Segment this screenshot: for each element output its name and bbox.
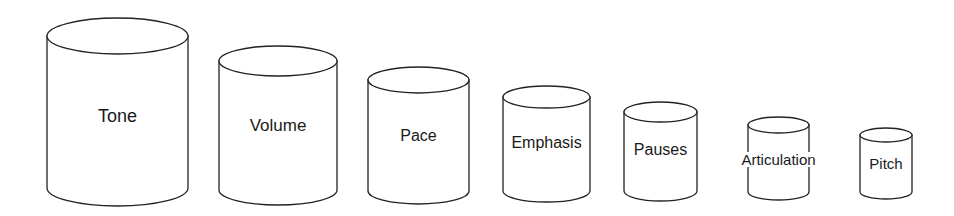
cylinder-pauses: Pauses [624, 102, 697, 201]
cylinder-label: Pauses [634, 141, 687, 158]
cylinder-label: Pace [400, 127, 437, 144]
cylinder-top [748, 117, 809, 133]
cylinder-label: Emphasis [511, 134, 581, 151]
cylinder-volume: Volume [219, 46, 337, 205]
cylinder-tone: Tone [47, 18, 188, 206]
cylinder-label: Pitch [869, 155, 902, 172]
cylinder-pace: Pace [368, 67, 469, 204]
cylinder-label: Articulation [741, 151, 815, 168]
cylinder-diagram-canvas: ToneVolumePaceEmphasisPausesArticulation… [0, 0, 954, 216]
cylinder-label: Volume [250, 116, 307, 135]
cylinder-top [47, 18, 188, 54]
cylinder-top [503, 86, 590, 108]
cylinder-top [624, 102, 697, 122]
cylinder-pitch: Pitch [860, 128, 912, 199]
cylinder-label: Tone [98, 106, 137, 126]
cylinder-top [219, 46, 337, 76]
cylinder-emphasis: Emphasis [503, 86, 590, 202]
cylinder-top [860, 128, 912, 142]
cylinder-top [368, 67, 469, 93]
cylinder-articulation: Articulation [740, 117, 816, 200]
